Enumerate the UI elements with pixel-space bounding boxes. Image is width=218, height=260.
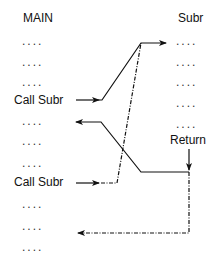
control-flow-arrows [0,0,218,260]
return-2-arrow [78,172,189,233]
return-1-arrow [76,122,189,172]
call-2-arrow [76,43,141,183]
call-1-arrow [76,43,166,100]
